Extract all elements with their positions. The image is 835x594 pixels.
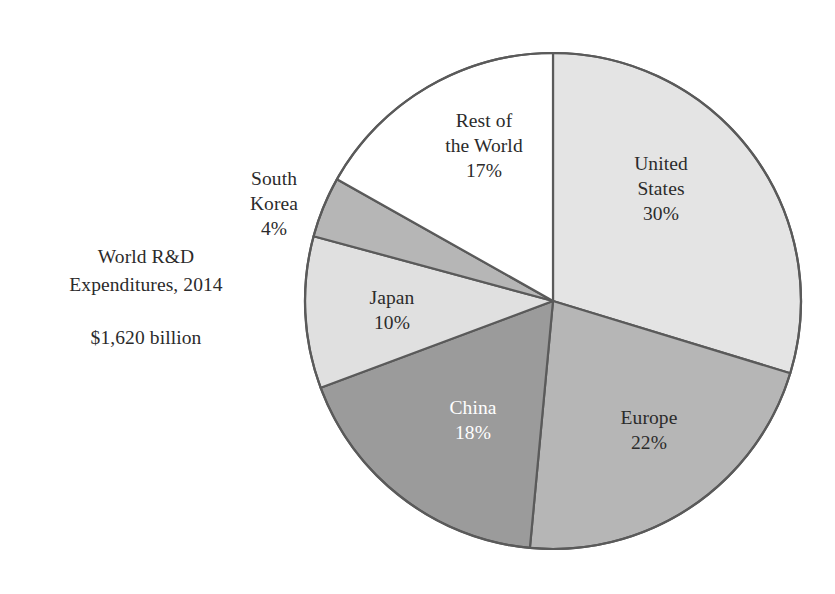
slice-label-europe: Europe 22% bbox=[621, 406, 678, 456]
slice-label-south-korea-line1: South bbox=[250, 167, 298, 192]
slice-label-rest-of-the-world: Rest of the World 17% bbox=[445, 109, 523, 183]
slice-label-europe-line1: Europe bbox=[621, 406, 678, 431]
slice-value-rest-of-the-world: 17% bbox=[445, 158, 523, 183]
slice-label-japan-line1: Japan bbox=[370, 286, 415, 311]
pie-diagram bbox=[0, 0, 835, 594]
slice-label-united-states-line1: United bbox=[634, 152, 688, 177]
slice-label-south-korea-line2: Korea bbox=[250, 192, 298, 217]
slice-value-south-korea: 4% bbox=[250, 216, 298, 241]
slice-value-japan: 10% bbox=[370, 311, 415, 336]
slice-label-united-states-line2: States bbox=[634, 177, 688, 202]
slice-value-europe: 22% bbox=[621, 431, 678, 456]
slice-value-china: 18% bbox=[449, 421, 496, 446]
slice-label-united-states: United States 30% bbox=[634, 152, 688, 226]
slice-label-rest-of-the-world-line2: the World bbox=[445, 134, 523, 159]
slice-label-rest-of-the-world-line1: Rest of bbox=[445, 109, 523, 134]
slice-label-china-line1: China bbox=[449, 396, 496, 421]
pie-chart-figure: World R&D Expenditures, 2014 $1,620 bill… bbox=[0, 0, 835, 594]
slice-label-japan: Japan 10% bbox=[370, 286, 415, 336]
slice-label-china: China 18% bbox=[449, 396, 496, 446]
slice-label-south-korea: South Korea 4% bbox=[250, 167, 298, 241]
slice-value-united-states: 30% bbox=[634, 201, 688, 226]
